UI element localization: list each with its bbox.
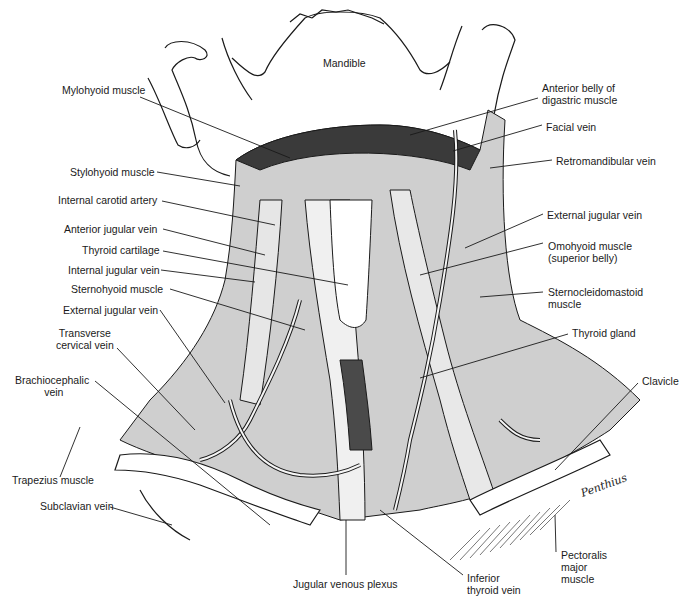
- label-jugular-venous-plexus: Jugular venous plexus: [293, 578, 397, 590]
- label-omohyoid-muscle: Omohyoid muscle (superior belly): [548, 240, 632, 264]
- label-inferior-thyroid-vein: Inferior thyroid vein: [467, 572, 521, 596]
- label-thyroid-gland: Thyroid gland: [572, 327, 636, 339]
- label-anterior-belly-digastric: Anterior belly of digastric muscle: [542, 82, 617, 106]
- label-clavicle: Clavicle: [642, 375, 679, 387]
- label-trapezius-muscle: Trapezius muscle: [12, 474, 94, 486]
- label-external-jugular-vein-right: External jugular vein: [547, 209, 642, 221]
- label-external-jugular-vein-left: External jugular vein: [63, 304, 158, 316]
- label-internal-jugular-vein: Internal jugular vein: [68, 264, 160, 276]
- label-sternohyoid-muscle: Sternohyoid muscle: [71, 283, 163, 295]
- label-facial-vein: Facial vein: [546, 121, 596, 133]
- label-transverse-cervical-vein: Transverse cervical vein: [56, 327, 114, 351]
- label-mylohyoid-muscle: Mylohyoid muscle: [62, 84, 145, 96]
- label-sternocleidomastoid-muscle: Sternocleidomastoid muscle: [548, 286, 643, 310]
- label-thyroid-cartilage: Thyroid cartilage: [82, 244, 160, 256]
- label-brachiocephalic-vein: Brachiocephalic vein: [15, 374, 89, 398]
- label-pectoralis-major-muscle: Pectoralis major muscle: [561, 549, 607, 585]
- neck-anatomy-figure: Mandible Mylohyoid muscle Stylohyoid mus…: [0, 0, 689, 609]
- label-mandible: Mandible: [323, 57, 366, 69]
- label-retromandibular-vein: Retromandibular vein: [556, 155, 656, 167]
- label-stylohyoid-muscle: Stylohyoid muscle: [70, 166, 155, 178]
- pectoralis-hatching: [450, 500, 570, 560]
- label-internal-carotid-artery: Internal carotid artery: [58, 194, 157, 206]
- label-anterior-jugular-vein: Anterior jugular vein: [64, 223, 157, 235]
- label-subclavian-vein: Subclavian vein: [40, 500, 114, 512]
